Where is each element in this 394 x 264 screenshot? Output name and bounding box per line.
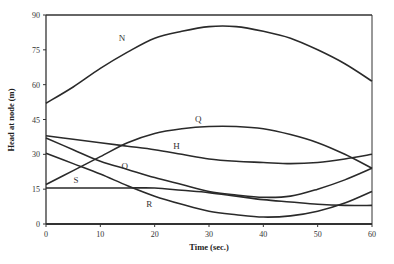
x-axis-title: Time (sec.) — [189, 242, 229, 252]
x-tick-label: 20 — [151, 230, 159, 239]
x-axis-ticks: 0102030405060 — [44, 224, 376, 239]
series-label-s: S — [73, 175, 78, 185]
series-curve-r — [46, 153, 372, 217]
series-label-q: Q — [195, 114, 202, 124]
x-tick-label: 30 — [205, 230, 213, 239]
y-tick-label: 75 — [32, 46, 40, 55]
x-tick-label: 0 — [44, 230, 48, 239]
series-curve-n — [46, 26, 372, 103]
series-curve-s — [46, 188, 372, 206]
line-chart: 0153045607590 0102030405060 NQHOSR Head … — [0, 0, 394, 264]
y-tick-label: 15 — [32, 185, 40, 194]
x-tick-label: 10 — [96, 230, 104, 239]
x-tick-label: 50 — [314, 230, 322, 239]
series-curve-q — [46, 126, 372, 184]
y-tick-label: 60 — [32, 81, 40, 90]
series-label-r: R — [146, 199, 152, 209]
series-curves — [46, 26, 372, 217]
x-tick-label: 60 — [368, 230, 376, 239]
x-tick-label: 40 — [259, 230, 267, 239]
y-axis-ticks: 0153045607590 — [32, 11, 46, 229]
series-label-o: O — [122, 161, 129, 171]
y-axis-title: Head at node (m) — [6, 88, 16, 151]
series-label-h: H — [173, 141, 180, 151]
y-tick-label: 90 — [32, 11, 40, 20]
y-tick-label: 0 — [36, 220, 40, 229]
y-tick-label: 45 — [32, 116, 40, 125]
y-tick-label: 30 — [32, 150, 40, 159]
series-label-n: N — [119, 33, 126, 43]
series-labels: NQHOSR — [73, 33, 202, 209]
